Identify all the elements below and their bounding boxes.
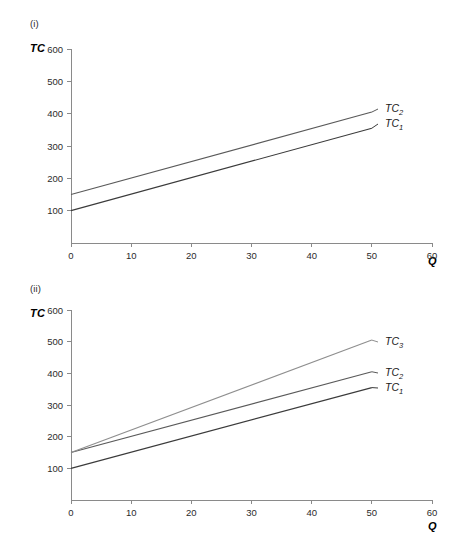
y-tick-label: 100 [47, 463, 63, 474]
chart-panel-i: (i) TC Q 1002003004005006000102030405060… [0, 0, 461, 275]
x-tick-label: 30 [246, 250, 257, 261]
chart-plot-i: 1002003004005006000102030405060TC1TC2 [0, 0, 461, 275]
x-tick-label: 30 [246, 507, 257, 518]
y-tick-label: 300 [47, 400, 63, 411]
series-line-TC_2 [71, 372, 372, 453]
y-tick-label: 500 [47, 336, 63, 347]
x-tick-label: 50 [367, 507, 378, 518]
y-tick-label: 200 [47, 173, 63, 184]
x-tick-label: 0 [68, 507, 73, 518]
series-label-TC_2: TC2 [385, 102, 404, 117]
series-line-TC_3 [71, 340, 372, 452]
x-tick-label: 20 [186, 507, 197, 518]
series-leader-TC_1 [372, 124, 378, 128]
series-label-TC_2: TC2 [385, 366, 404, 381]
chart-plot-ii: 1002003004005006000102030405060TC1TC2TC3 [0, 275, 461, 557]
y-tick-label: 400 [47, 108, 63, 119]
x-tick-label: 40 [306, 250, 317, 261]
series-leader-TC_2 [372, 372, 378, 373]
y-tick-label: 200 [47, 431, 63, 442]
x-tick-label: 20 [186, 250, 197, 261]
chart-panel-ii: (ii) TC Q 100200300400500600010203040506… [0, 275, 461, 557]
x-tick-label: 50 [367, 250, 378, 261]
x-tick-label: 40 [306, 507, 317, 518]
series-line-TC_2 [71, 112, 372, 194]
series-label-TC_1: TC1 [385, 381, 403, 396]
y-tick-label: 500 [47, 76, 63, 87]
y-tick-label: 100 [47, 205, 63, 216]
series-label-TC_1: TC1 [385, 117, 403, 132]
x-tick-label: 10 [126, 507, 137, 518]
series-line-TC_1 [71, 388, 372, 469]
x-tick-label: 10 [126, 250, 137, 261]
figure-root: (i) TC Q 1002003004005006000102030405060… [0, 0, 461, 557]
series-line-TC_1 [71, 128, 372, 210]
x-tick-label: 60 [427, 250, 438, 261]
y-tick-label: 400 [47, 368, 63, 379]
series-leader-TC_3 [372, 340, 378, 342]
series-leader-TC_2 [372, 109, 378, 112]
y-tick-label: 600 [47, 44, 63, 55]
x-tick-label: 60 [427, 507, 438, 518]
x-tick-label: 0 [68, 250, 73, 261]
series-label-TC_3: TC3 [385, 335, 404, 350]
y-tick-label: 600 [47, 305, 63, 316]
y-tick-label: 300 [47, 141, 63, 152]
